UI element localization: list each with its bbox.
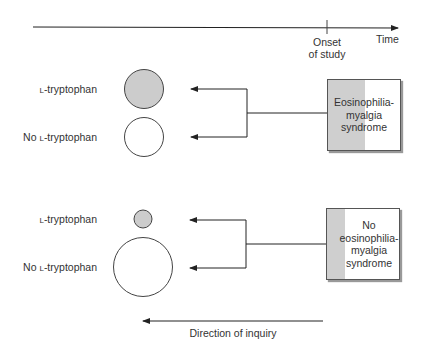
time-axis-label: Time (376, 33, 399, 45)
direction-of-inquiry-label: Direction of inquiry (173, 327, 293, 339)
time-axis-arrow (33, 27, 398, 28)
outcome-box-cases: Eosinophilia- myalgia syndrome (327, 79, 401, 151)
label-exposed-cases: L-tryptophan (0, 83, 97, 97)
onset-label: Onset of study (302, 36, 352, 60)
circle-unexposed-cases (125, 118, 164, 157)
circle-unexposed-controls (114, 238, 173, 297)
outcome-label-cases: Eosinophilia- myalgia syndrome (328, 96, 400, 134)
outcome-box-controls: No eosinophilia- myalgia syndrome (326, 208, 400, 280)
label-unexposed-controls: No L-tryptophan (0, 261, 97, 275)
outcome-label-controls: No eosinophilia- myalgia syndrome (339, 219, 399, 269)
label-unexposed-cases: No L-tryptophan (0, 131, 97, 145)
onset-label-line2: of study (302, 48, 352, 60)
circle-exposed-controls (134, 210, 152, 228)
circle-exposed-cases (125, 70, 164, 109)
onset-label-line1: Onset (302, 36, 352, 48)
label-exposed-controls: L-tryptophan (0, 213, 97, 227)
diagram-canvas (0, 0, 424, 351)
